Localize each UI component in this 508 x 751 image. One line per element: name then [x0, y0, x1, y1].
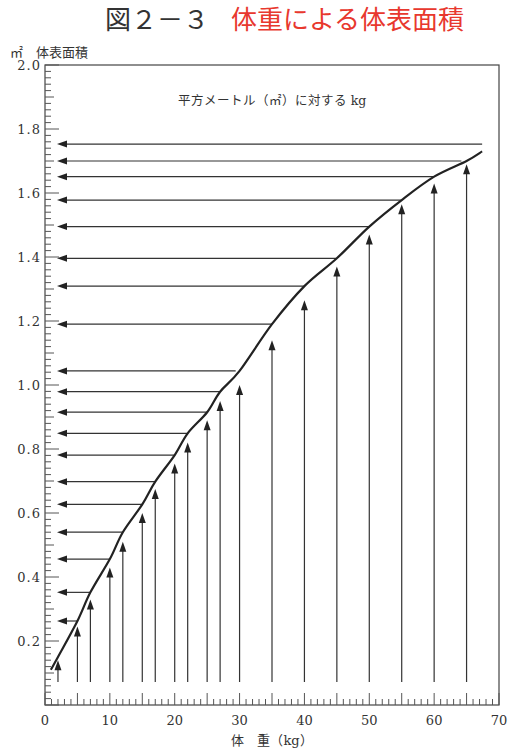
y-tick-label: 0.2: [17, 634, 41, 649]
arrow-up-icon: [301, 300, 308, 310]
x-tick-label: 20: [166, 713, 183, 728]
x-tick-label: 10: [102, 713, 119, 728]
arrow-up-icon: [152, 489, 159, 499]
y-tick-label: 2.0: [17, 58, 41, 73]
x-tick-label: 60: [426, 713, 443, 728]
arrow-left-icon: [57, 223, 67, 230]
y-tick-label: 0.4: [17, 570, 41, 585]
bsa-chart: ㎡ 体表面積 平方メートル（㎡）に対する kg 0.20.40.60.81.01…: [0, 0, 508, 751]
x-axis-label: 体 重（kg）: [231, 733, 312, 748]
arrow-left-icon: [57, 452, 67, 459]
arrow-left-icon: [57, 283, 67, 290]
y-tick-label: 0.8: [17, 442, 41, 457]
y-tick-label: 1.0: [17, 378, 41, 393]
x-axis-tick-labels: 010203040506070: [41, 713, 507, 728]
x-tick-label: 40: [296, 713, 313, 728]
arrow-up-icon: [366, 235, 373, 245]
x-tick-label: 0: [41, 713, 49, 728]
arrow-up-icon: [171, 463, 178, 473]
arrow-up-icon: [398, 204, 405, 214]
arrow-left-icon: [57, 556, 67, 563]
x-tick-label: 50: [361, 713, 378, 728]
arrow-up-icon: [119, 542, 126, 552]
arrow-left-icon: [57, 255, 67, 262]
arrow-left-icon: [57, 197, 67, 204]
vertical-reading-arrows: [54, 164, 470, 682]
y-axis-tick-labels: 0.20.40.60.81.01.21.41.61.82.0: [17, 58, 41, 649]
bsa-curve: [51, 151, 482, 669]
arrow-up-icon: [333, 267, 340, 277]
arrow-left-icon: [57, 367, 67, 374]
y-tick-label: 0.6: [17, 506, 41, 521]
arrow-up-icon: [139, 513, 146, 523]
arrow-up-icon: [106, 567, 113, 577]
arrow-up-icon: [204, 420, 211, 430]
arrow-up-icon: [431, 183, 438, 193]
arrow-left-icon: [57, 618, 67, 625]
arrow-up-icon: [269, 340, 276, 350]
arrow-left-icon: [57, 501, 67, 508]
y-tick-label: 1.4: [17, 250, 41, 265]
arrow-left-icon: [57, 388, 67, 395]
arrow-left-icon: [57, 529, 67, 536]
arrow-left-icon: [57, 589, 67, 596]
y-axis-ticks: [45, 65, 59, 705]
arrow-left-icon: [57, 173, 67, 180]
arrow-up-icon: [236, 385, 243, 395]
arrow-up-icon: [87, 599, 94, 609]
arrow-left-icon: [57, 409, 67, 416]
y-tick-label: 1.6: [17, 186, 41, 201]
arrow-left-icon: [57, 158, 67, 165]
arrow-up-icon: [217, 401, 224, 411]
chart-subtitle: 平方メートル（㎡）に対する kg: [178, 93, 367, 108]
arrow-up-icon: [184, 443, 191, 453]
x-axis-ticks: [45, 693, 499, 705]
horizontal-reading-arrows: [57, 141, 482, 625]
arrow-left-icon: [57, 430, 67, 437]
x-tick-label: 70: [491, 713, 508, 728]
arrow-left-icon: [57, 141, 67, 148]
y-tick-label: 1.2: [17, 314, 41, 329]
arrow-left-icon: [57, 321, 67, 328]
y-tick-label: 1.8: [17, 122, 41, 137]
arrow-up-icon: [463, 164, 470, 174]
x-tick-label: 30: [231, 713, 248, 728]
arrow-left-icon: [57, 478, 67, 485]
